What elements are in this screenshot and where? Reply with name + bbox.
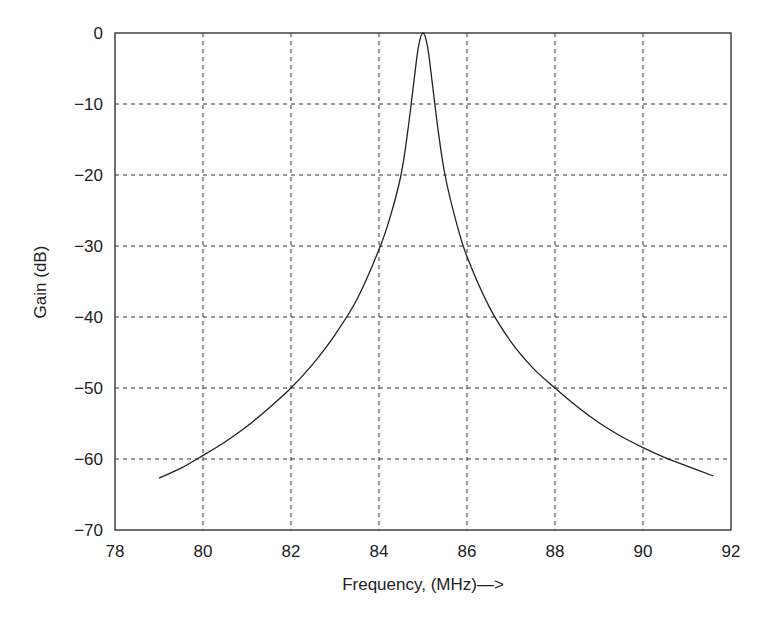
x-tick-label: 86: [458, 542, 477, 561]
x-axis-label: Frequency, (MHz)—>: [342, 575, 504, 594]
gain-frequency-chart: 7880828486889092 0−10−20−30−40−50−60−70 …: [0, 0, 766, 626]
x-tick-label: 80: [194, 542, 213, 561]
y-tick-label: −60: [74, 450, 103, 469]
x-tick-label: 78: [106, 542, 125, 561]
y-tick-label: −50: [74, 379, 103, 398]
y-tick-label: 0: [94, 24, 103, 43]
y-tick-label: −10: [74, 95, 103, 114]
x-tick-label: 88: [546, 542, 565, 561]
x-axis-ticks: 7880828486889092: [106, 542, 741, 561]
gain-curve: [159, 33, 713, 478]
plot-frame: [115, 33, 731, 530]
y-axis-ticks: 0−10−20−30−40−50−60−70: [74, 24, 103, 540]
x-tick-label: 90: [634, 542, 653, 561]
x-tick-label: 82: [282, 542, 301, 561]
grid-lines: [115, 33, 731, 530]
x-tick-label: 92: [722, 542, 741, 561]
x-tick-label: 84: [370, 542, 389, 561]
y-axis-label: Gain (dB): [31, 246, 50, 319]
y-tick-label: −20: [74, 166, 103, 185]
y-tick-label: −70: [74, 521, 103, 540]
y-tick-label: −30: [74, 237, 103, 256]
y-tick-label: −40: [74, 308, 103, 327]
